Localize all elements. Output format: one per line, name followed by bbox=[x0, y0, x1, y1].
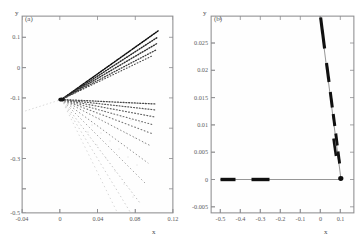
panel-a-tag: (a) bbox=[25, 15, 33, 23]
panel-b-ytick-1: 0.02 bbox=[182, 66, 208, 73]
panel-a-xtick-0: -0.04 bbox=[8, 215, 36, 222]
panel-a-xtick-2: 0.04 bbox=[84, 215, 112, 222]
panel-b-y-ticks bbox=[211, 43, 354, 207]
panel-a-data bbox=[22, 31, 158, 218]
panel-a-xtick-3: 0.08 bbox=[121, 215, 149, 222]
panel-b-xtick-6: 0.1 bbox=[327, 215, 354, 222]
panel-a-ytick-0: 0.1 bbox=[0, 33, 20, 40]
panel-b-ytick-5: 0 bbox=[182, 176, 208, 183]
panel-b-ylabel: y bbox=[203, 9, 207, 17]
panel-a-xlabel: x bbox=[152, 228, 156, 236]
panel-a-ytick-1: 0 bbox=[0, 64, 20, 71]
panel-a-y-ticks bbox=[22, 37, 173, 213]
panel-b: (b) y x 0.025 0.02 0.015 0.01 0.005 0 -0… bbox=[181, 0, 363, 245]
panel-b-ytick-0: 0.025 bbox=[182, 39, 208, 46]
panel-b-data bbox=[220, 16, 343, 181]
panel-a-axes-frame bbox=[22, 16, 173, 213]
panel-b-xlabel: x bbox=[324, 228, 328, 236]
panel-a-ytick-2: -0.1 bbox=[0, 94, 20, 101]
panel-a-plot bbox=[0, 0, 182, 245]
panel-b-x-ticks bbox=[220, 16, 340, 213]
panel-b-tag: (b) bbox=[214, 15, 222, 23]
panel-a-xtick-1: 0 bbox=[46, 215, 74, 222]
panel-b-ytick-6: -0.005 bbox=[182, 203, 208, 210]
panel-a-x-ticks bbox=[22, 16, 173, 213]
panel-a-ylabel: y bbox=[15, 9, 19, 17]
panel-a-ytick-4: -0.3 bbox=[0, 155, 20, 162]
panel-a: (a) y x 0.1 0 -0.1 -0.3 -0.5 -0.04 0 0.0… bbox=[0, 0, 182, 245]
panel-b-ytick-4: 0.005 bbox=[182, 148, 208, 155]
panel-b-ytick-2: 0.015 bbox=[182, 94, 208, 101]
figure-container: (a) y x 0.1 0 -0.1 -0.3 -0.5 -0.04 0 0.0… bbox=[0, 0, 363, 245]
panel-b-plot bbox=[181, 0, 363, 245]
panel-b-ytick-3: 0.01 bbox=[182, 121, 208, 128]
panel-b-node-marker bbox=[338, 176, 343, 181]
